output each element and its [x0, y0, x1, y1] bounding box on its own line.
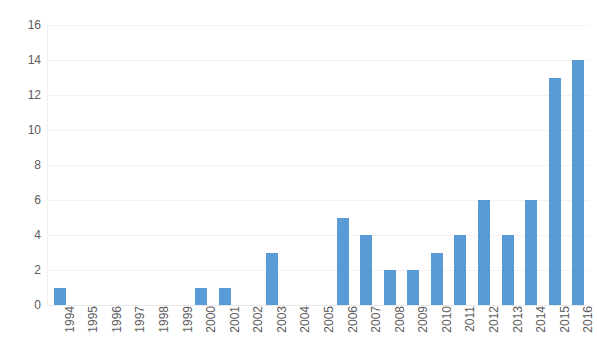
y-axis-tick-label: 6: [5, 194, 41, 206]
y-axis-tick-label: 14: [5, 54, 41, 66]
x-axis-tick-label: 2000: [205, 306, 217, 362]
x-axis-tick-label: 2001: [229, 306, 241, 362]
y-axis-tick-labels: 0246810121416: [0, 25, 41, 305]
bar[interactable]: [195, 288, 207, 306]
bar[interactable]: [549, 78, 561, 306]
bar[interactable]: [572, 60, 584, 305]
bar[interactable]: [266, 253, 278, 306]
x-axis-tick-label: 1997: [134, 306, 146, 362]
bar[interactable]: [337, 218, 349, 306]
x-axis-tick-label: 2012: [488, 306, 500, 362]
x-axis-tick-label: 2016: [582, 306, 594, 362]
bar[interactable]: [478, 200, 490, 305]
x-axis-tick-label: 2003: [276, 306, 288, 362]
x-axis-tick-label: 2013: [512, 306, 524, 362]
bar[interactable]: [360, 235, 372, 305]
y-axis-tick-label: 16: [5, 19, 41, 31]
bar[interactable]: [525, 200, 537, 305]
bar[interactable]: [54, 288, 66, 306]
x-axis-tick-label: 2007: [370, 306, 382, 362]
bar[interactable]: [219, 288, 231, 306]
bar[interactable]: [502, 235, 514, 305]
x-axis-tick-label: 2011: [464, 306, 476, 362]
x-axis-tick-labels: 1994199519961997199819992000200120022003…: [47, 306, 589, 362]
bar[interactable]: [407, 270, 419, 305]
bar[interactable]: [431, 253, 443, 306]
y-axis-tick-label: 8: [5, 159, 41, 171]
y-axis-tick-label: 2: [5, 264, 41, 276]
y-axis-tick-label: 10: [5, 124, 41, 136]
x-axis-tick-label: 1998: [158, 306, 170, 362]
x-axis-tick-label: 2004: [299, 306, 311, 362]
x-axis-tick-label: 2008: [394, 306, 406, 362]
y-axis-tick-label: 4: [5, 229, 41, 241]
bar[interactable]: [454, 235, 466, 305]
bar-chart: 0246810121416 19941995199619971998199920…: [0, 0, 597, 362]
x-axis-tick-label: 2015: [559, 306, 571, 362]
x-axis-tick-label: 1999: [182, 306, 194, 362]
x-axis-tick-label: 2010: [441, 306, 453, 362]
x-axis-tick-label: 1995: [87, 306, 99, 362]
x-axis-tick-label: 1994: [64, 306, 76, 362]
x-axis-tick-label: 1996: [111, 306, 123, 362]
y-axis-tick-label: 0: [5, 299, 41, 311]
x-axis-tick-label: 2009: [417, 306, 429, 362]
x-axis-tick-label: 2005: [323, 306, 335, 362]
y-axis-tick-label: 12: [5, 89, 41, 101]
x-axis-tick-label: 2006: [347, 306, 359, 362]
x-axis-tick-label: 2014: [535, 306, 547, 362]
x-axis-tick-label: 2002: [252, 306, 264, 362]
bar-series: [47, 25, 589, 305]
bar[interactable]: [384, 270, 396, 305]
plot-area: [47, 25, 589, 305]
